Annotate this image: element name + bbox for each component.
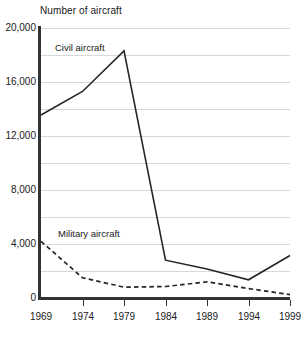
x-axis-tick-label: 1984 xyxy=(146,311,186,322)
x-axis-tick-label: 1974 xyxy=(63,311,103,322)
series-lines xyxy=(41,28,290,298)
aircraft-line-chart: Number of aircraft 04,0008,00012,00016,0… xyxy=(0,0,307,339)
x-axis-tick-mark xyxy=(207,300,208,306)
x-axis-tick-mark xyxy=(83,300,84,306)
x-axis-tick-mark xyxy=(124,300,125,306)
x-axis-tick-label: 1969 xyxy=(21,311,61,322)
x-axis-tick-label: 1989 xyxy=(187,311,227,322)
military-aircraft-label: Military aircraft xyxy=(58,228,120,239)
y-axis-tick-label: 12,000 xyxy=(5,131,36,141)
y-axis-tick-label: 20,000 xyxy=(5,23,36,33)
civil-aircraft-label: Civil aircraft xyxy=(55,42,105,53)
y-axis-tick-labels: 04,0008,00012,00016,00020,000 xyxy=(0,0,36,339)
y-axis-tick-label: 8,000 xyxy=(11,185,36,195)
y-axis-tick-label: 4,000 xyxy=(11,239,36,249)
plot-area xyxy=(41,28,290,298)
y-axis-tick-label: 16,000 xyxy=(5,77,36,87)
x-axis-tick-label: 1999 xyxy=(270,311,307,322)
military-aircraft-line xyxy=(41,241,290,294)
x-axis-tick-mark xyxy=(249,300,250,306)
x-axis-line xyxy=(38,297,290,300)
x-axis-tick-label: 1979 xyxy=(104,311,144,322)
chart-title: Number of aircraft xyxy=(40,5,122,17)
civil-aircraft-line xyxy=(41,51,290,280)
x-axis-tick-mark xyxy=(166,300,167,306)
y-axis-line xyxy=(38,26,41,300)
x-axis-tick-label: 1994 xyxy=(229,311,269,322)
x-axis-tick-mark xyxy=(290,300,291,306)
y-axis-tick-label: 0 xyxy=(30,293,36,303)
